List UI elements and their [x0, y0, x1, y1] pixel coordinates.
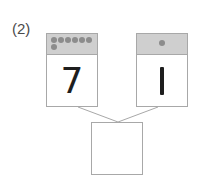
left-number: 7	[47, 55, 97, 106]
right-dots	[137, 40, 187, 46]
dot-icon	[65, 37, 71, 43]
dot-icon	[79, 37, 85, 43]
dot-icon	[51, 44, 57, 50]
dot-icon	[58, 37, 64, 43]
right-dot-header	[137, 34, 187, 55]
left-dots	[51, 37, 97, 50]
dot-icon	[86, 37, 92, 43]
left-dot-header	[47, 34, 97, 55]
left-number-card: 7	[46, 33, 98, 107]
dot-icon	[51, 37, 57, 43]
dot-icon	[72, 37, 78, 43]
answer-box[interactable]	[91, 122, 143, 175]
number-one-glyph	[160, 67, 164, 95]
right-number	[137, 55, 187, 106]
right-number-card	[136, 33, 188, 107]
dot-icon	[159, 40, 165, 46]
